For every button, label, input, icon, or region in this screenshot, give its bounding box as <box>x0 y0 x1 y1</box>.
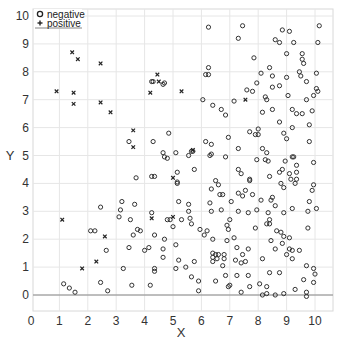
x-tick-label: 4 <box>141 314 148 328</box>
x-tick-label: 9 <box>283 314 290 328</box>
y-axis-label: Y <box>6 148 15 163</box>
y-tick-label: 1 <box>22 260 29 274</box>
plot-background <box>33 9 333 311</box>
y-tick-label: 0 <box>22 288 29 302</box>
x-tick-label: 1 <box>56 314 63 328</box>
y-tick-label: 6 <box>22 121 29 135</box>
y-tick-label: 3 <box>22 204 29 218</box>
x-tick-label: 3 <box>113 314 120 328</box>
x-tick-label: 6 <box>198 314 205 328</box>
y-tick-label: 10 <box>16 9 30 23</box>
y-tick-label: 7 <box>22 93 29 107</box>
legend-label-positive: positive <box>47 18 81 29</box>
x-tick-label: 10 <box>308 314 322 328</box>
x-tick-labels: 012345678910 <box>28 314 322 328</box>
y-tick-label: 5 <box>22 149 29 163</box>
y-tick-label: 8 <box>22 65 29 79</box>
x-tick-label: 2 <box>84 314 91 328</box>
y-tick-label: 4 <box>22 176 29 190</box>
x-axis-label: X <box>177 325 186 340</box>
x-tick-label: 8 <box>255 314 262 328</box>
scatter-chart: 012345678910 012345678910 X Y negative p… <box>0 0 342 344</box>
y-tick-labels: 012345678910 <box>16 9 30 302</box>
x-tick-label: 7 <box>226 314 233 328</box>
y-tick-label: 2 <box>22 232 29 246</box>
x-tick-label: 0 <box>28 314 35 328</box>
y-tick-label: 9 <box>22 37 29 51</box>
x-tick-label: 5 <box>170 314 177 328</box>
legend: negative positive <box>34 9 85 30</box>
